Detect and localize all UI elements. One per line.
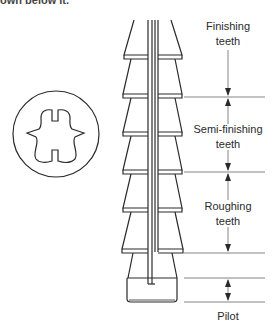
cross-section-view: [13, 91, 99, 177]
semi-finishing-label-line1: Semi-finishing: [193, 122, 262, 137]
roughing-label-line2: teeth: [204, 214, 251, 229]
finishing-label-line2: teeth: [206, 34, 250, 49]
pilot-label: Pilot: [217, 309, 238, 324]
broach-body: [122, 20, 183, 302]
roughing-teeth-label: Roughing teeth: [204, 199, 251, 229]
finishing-teeth-label: Finishing teeth: [206, 19, 250, 49]
dimension-lines: [184, 50, 265, 302]
roughing-label-line1: Roughing: [204, 199, 251, 214]
pilot-label-line1: Pilot: [217, 309, 238, 324]
semi-finishing-teeth-label: Semi-finishing teeth: [193, 122, 262, 152]
finishing-label-line1: Finishing: [206, 19, 250, 34]
semi-finishing-label-line2: teeth: [193, 137, 262, 152]
